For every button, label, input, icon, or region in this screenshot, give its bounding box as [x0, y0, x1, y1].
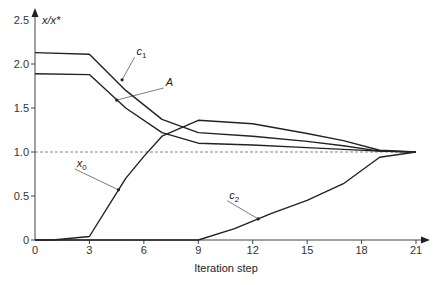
y-tick-label: 2.0: [14, 58, 29, 70]
x-tick-label: 9: [195, 244, 201, 256]
y-tick-label: 1.0: [14, 146, 29, 158]
y-tick-label: 2.5: [14, 14, 29, 26]
axes: 03691215182100.51.01.52.02.5: [14, 8, 430, 256]
x-tick-label: 21: [410, 244, 422, 256]
series-label-c1: c1: [137, 45, 148, 60]
series-x0: [35, 120, 416, 240]
leader-dot: [117, 188, 120, 191]
y-axis-title: x/x*: [41, 14, 61, 26]
x-tick-label: 3: [86, 244, 92, 256]
leader-line: [227, 201, 258, 219]
leader-dot: [257, 217, 260, 220]
x-tick-label: 6: [141, 244, 147, 256]
y-tick-label: 0.5: [14, 190, 29, 202]
x-tick-label: 15: [301, 244, 313, 256]
series-label-A: A: [165, 76, 173, 88]
leader-line: [122, 57, 135, 80]
line-chart: 03691215182100.51.01.52.02.5 c1Ax0c2 Ite…: [0, 0, 444, 285]
series-label-x0: x0: [76, 157, 88, 172]
x-tick-label: 12: [247, 244, 259, 256]
series-lines: [35, 53, 416, 240]
y-tick-label: 1.5: [14, 102, 29, 114]
leader-line: [75, 169, 119, 190]
series-label-c2: c2: [229, 189, 240, 204]
series-A: [35, 74, 416, 152]
leader-dot: [120, 78, 123, 81]
x-tick-label: 18: [355, 244, 367, 256]
y-tick-label: 0: [23, 234, 29, 246]
x-axis-arrow-icon: [421, 237, 430, 244]
series-c1: [35, 53, 416, 152]
series-c2: [35, 152, 416, 240]
y-axis-arrow-icon: [32, 8, 39, 17]
x-axis-title: Iteration step: [194, 262, 258, 274]
leader-line: [117, 88, 164, 100]
series-labels: c1Ax0c2: [75, 45, 260, 220]
x-tick-label: 0: [32, 244, 38, 256]
leader-dot: [115, 98, 118, 101]
